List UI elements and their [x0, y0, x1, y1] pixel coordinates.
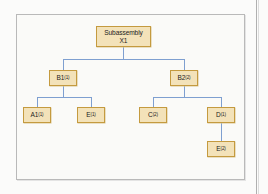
connector-b1-bus: [37, 97, 91, 98]
node-e2-subscript: (2): [220, 145, 225, 153]
node-e2[interactable]: E(2): [207, 141, 235, 157]
node-d1-subscript: (1): [221, 111, 226, 119]
node-b2[interactable]: B2(2): [170, 70, 198, 86]
node-c2[interactable]: C(2): [139, 107, 167, 123]
page-edge-rule: [256, 0, 257, 194]
connector-to-b2: [184, 59, 185, 70]
node-b1-label: B1: [56, 74, 64, 82]
figure-page: Subassembly X1 B1(1) B2(2) A1(1) E(1) C(…: [0, 0, 268, 194]
connector-b2-stem: [184, 86, 185, 97]
node-b2-label: B2: [177, 74, 185, 82]
page-edge-rule-secondary: [258, 0, 259, 194]
connector-to-a1: [37, 97, 38, 107]
node-b1-subscript: (1): [64, 74, 69, 82]
node-e1[interactable]: E(1): [77, 107, 105, 123]
connector-d1-to-e2: [221, 123, 222, 141]
connector-level1-bus: [63, 59, 184, 60]
diagram-frame: Subassembly X1 B1(1) B2(2) A1(1) E(1) C(…: [16, 14, 245, 180]
node-subassembly-x1[interactable]: Subassembly X1: [96, 26, 151, 47]
node-a1[interactable]: A1(1): [23, 107, 51, 123]
connector-root-stem: [123, 47, 124, 59]
node-a1-label: A1: [30, 111, 38, 119]
node-c2-subscript: (2): [153, 111, 158, 119]
connector-to-d1: [221, 97, 222, 107]
node-a1-subscript: (1): [38, 111, 43, 119]
node-root-line2: X1: [120, 37, 128, 45]
node-b2-subscript: (2): [185, 74, 190, 82]
connector-to-c2: [153, 97, 154, 107]
node-d1[interactable]: D(1): [207, 107, 235, 123]
node-e1-subscript: (1): [90, 111, 95, 119]
node-b1[interactable]: B1(1): [49, 70, 77, 86]
node-root-line1: Subassembly: [104, 29, 142, 37]
connector-b2-bus: [153, 97, 221, 98]
connector-to-b1: [63, 59, 64, 70]
connector-to-e1: [91, 97, 92, 107]
connector-b1-stem: [63, 86, 64, 97]
